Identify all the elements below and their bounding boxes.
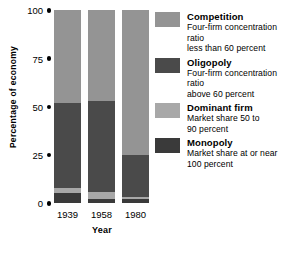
bar-segment-oligopoly <box>88 101 115 193</box>
legend-item-description-line1: Market share 50 to <box>187 113 295 124</box>
bar-segment-dominant-firm <box>88 192 115 199</box>
y-tick-0: 0 <box>38 198 51 209</box>
bar-segment-competition <box>54 10 81 103</box>
y-tick-75: 75 <box>32 53 51 64</box>
legend-swatch-icon <box>155 12 180 27</box>
legend-item-label: Dominant firm <box>187 102 295 113</box>
y-tick-100: 100 <box>27 5 51 16</box>
bar-segment-monopoly <box>88 199 115 203</box>
y-tick-marker-dot-icon <box>47 56 52 61</box>
bar-segment-competition <box>88 10 115 101</box>
legend-item-description-line2: 90 percent <box>187 124 295 135</box>
y-axis-ticks: 1007550250 <box>0 0 51 257</box>
y-tick-marker-dot-icon <box>47 153 52 158</box>
legend-item-label: Monopoly <box>187 137 295 148</box>
legend-item-label: Competition <box>187 11 295 22</box>
x-axis-title: Year <box>54 225 150 235</box>
bar-segment-oligopoly <box>54 103 81 188</box>
y-tick-label: 0 <box>38 198 43 209</box>
plot-area <box>54 10 150 203</box>
legend-item-description-line2: less than 60 percent <box>187 43 295 54</box>
legend-item-dominant-firm: Dominant firmMarket share 50 to90 percen… <box>155 102 295 134</box>
bar-segment-monopoly <box>122 199 149 203</box>
y-tick-label: 50 <box>32 102 43 113</box>
bar-1980 <box>122 10 149 203</box>
y-tick-marker-dot-icon <box>47 201 52 206</box>
y-tick-label: 100 <box>27 5 43 16</box>
bar-1958 <box>88 10 115 203</box>
y-tick-50: 50 <box>32 101 51 112</box>
legend-swatch-icon <box>155 138 180 153</box>
legend-item-description-line1: Four-firm concentration ratio <box>187 68 295 89</box>
legend-swatch-icon <box>155 103 180 118</box>
legend-swatch-icon <box>155 58 180 73</box>
y-tick-marker-dot-icon <box>47 8 52 13</box>
bar-segment-competition <box>122 10 149 155</box>
bar-segment-oligopoly <box>122 155 149 197</box>
legend-item-description-line1: Market share at or near <box>187 148 295 159</box>
legend-item-monopoly: MonopolyMarket share at or near100 perce… <box>155 137 295 169</box>
stacked-bar-chart: Percentage of economy 1007550250 1939195… <box>0 0 298 257</box>
y-tick-marker-dot-icon <box>47 105 52 110</box>
legend-item-description-line1: Four-firm concentration ratio <box>187 22 295 43</box>
legend-item-competition: CompetitionFour-firm concentration ratio… <box>155 11 295 54</box>
bar-1939 <box>54 10 81 203</box>
legend-item-label: Oligopoly <box>187 57 295 68</box>
legend: CompetitionFour-firm concentration ratio… <box>155 11 295 172</box>
y-tick-label: 75 <box>32 54 43 65</box>
y-tick-25: 25 <box>32 149 51 160</box>
bar-segment-monopoly <box>54 193 81 203</box>
legend-item-description-line2: above 60 percent <box>187 89 295 100</box>
x-tick-1980: 1980 <box>116 209 156 220</box>
legend-item-description-line2: 100 percent <box>187 159 295 170</box>
legend-item-oligopoly: OligopolyFour-firm concentration ratioab… <box>155 57 295 100</box>
y-tick-label: 25 <box>32 150 43 161</box>
